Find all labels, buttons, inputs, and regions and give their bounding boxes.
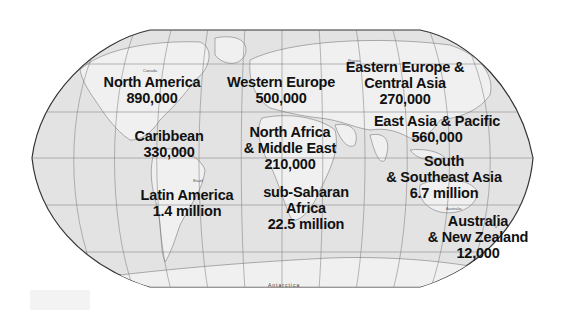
region-eastern-europe-central-asia: Eastern Europe & Central Asia 270,000 — [346, 59, 464, 107]
region-name: Latin America — [141, 187, 234, 203]
region-name-2: & New Zealand — [428, 229, 529, 245]
region-north-africa-middle-east: North Africa & Middle East 210,000 — [244, 124, 336, 172]
label-australia: Australia — [446, 206, 462, 211]
region-value: 22.5 million — [263, 216, 349, 232]
region-value: 890,000 — [104, 90, 201, 106]
region-name: Australia — [428, 213, 529, 229]
region-name: North Africa — [244, 124, 336, 140]
region-value: 330,000 — [134, 144, 203, 160]
label-brazil: Brazil — [193, 178, 203, 183]
region-name-2: & Southeast Asia — [386, 169, 502, 185]
region-name-2: & Middle East — [244, 140, 336, 156]
region-value: 270,000 — [346, 91, 464, 107]
region-value: 1.4 million — [141, 203, 234, 219]
label-antarctica: Antarctica — [268, 282, 300, 288]
region-name: South — [386, 153, 502, 169]
region-value: 6.7 million — [386, 185, 502, 201]
region-name: sub-Saharan — [263, 184, 349, 200]
region-value: 210,000 — [244, 156, 336, 172]
region-name: Western Europe — [227, 74, 335, 90]
region-caribbean: Caribbean 330,000 — [134, 128, 203, 160]
region-name: East Asia & Pacific — [374, 113, 500, 129]
region-value: 500,000 — [227, 90, 335, 106]
region-name: North America — [104, 74, 201, 90]
region-east-asia-pacific: East Asia & Pacific 560,000 — [374, 113, 500, 145]
region-name: Eastern Europe & — [346, 59, 464, 75]
region-sub-saharan-africa: sub-Saharan Africa 22.5 million — [263, 184, 349, 232]
region-value: 560,000 — [374, 129, 500, 145]
region-value: 12,000 — [428, 245, 529, 261]
world-map: Canada Brazil Russia Australia Antarctic… — [0, 0, 568, 316]
region-name: Caribbean — [134, 128, 203, 144]
region-western-europe: Western Europe 500,000 — [227, 74, 335, 106]
region-south-southeast-asia: South & Southeast Asia 6.7 million — [386, 153, 502, 201]
region-latin-america: Latin America 1.4 million — [141, 187, 234, 219]
region-name-2: Central Asia — [346, 75, 464, 91]
label-canada: Canada — [143, 68, 157, 73]
scan-artifact — [30, 290, 90, 310]
region-north-america: North America 890,000 — [104, 74, 201, 106]
region-name-2: Africa — [263, 200, 349, 216]
region-australia-new-zealand: Australia & New Zealand 12,000 — [428, 213, 529, 261]
